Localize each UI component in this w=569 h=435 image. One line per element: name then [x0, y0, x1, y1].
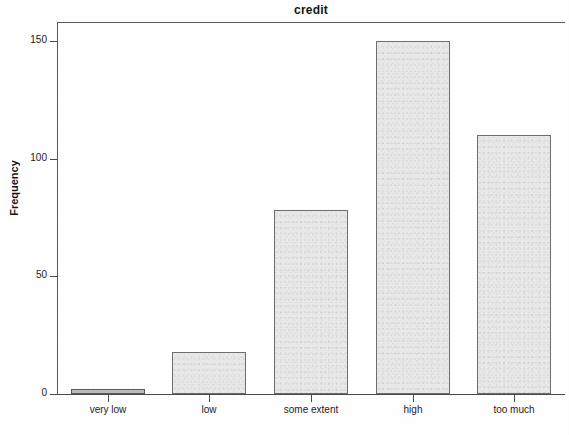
x-axis-tick: [514, 395, 515, 402]
y-axis-tick: 100: [50, 159, 57, 160]
bar: [172, 352, 246, 394]
y-axis-tick-label: 150: [30, 34, 47, 45]
y-axis-tick: 150: [50, 41, 57, 42]
y-axis-tick-label: 0: [41, 387, 47, 398]
bar-chart-figure: credit Frequency 050100150 very lowlowso…: [0, 0, 569, 435]
chart-title: credit: [57, 3, 565, 17]
x-axis-tick: [108, 395, 109, 402]
y-axis-tick: 50: [50, 276, 57, 277]
x-axis-tick: [209, 395, 210, 402]
x-axis-tick: [311, 395, 312, 402]
bar: [274, 210, 348, 394]
x-axis-tick-label: low: [201, 404, 216, 415]
y-axis-tick-label: 100: [30, 152, 47, 163]
y-axis-tick-label: 50: [36, 269, 47, 280]
bar: [71, 389, 145, 394]
y-axis-label: Frequency: [8, 148, 20, 228]
bar: [376, 41, 450, 394]
bar: [477, 135, 551, 394]
x-axis-tick-label: high: [404, 404, 423, 415]
x-axis-tick: [413, 395, 414, 402]
y-axis-tick: 0: [50, 394, 57, 395]
x-axis-tick-label: some extent: [284, 404, 338, 415]
x-axis-tick-label: too much: [493, 404, 534, 415]
x-axis-tick-label: very low: [90, 404, 127, 415]
